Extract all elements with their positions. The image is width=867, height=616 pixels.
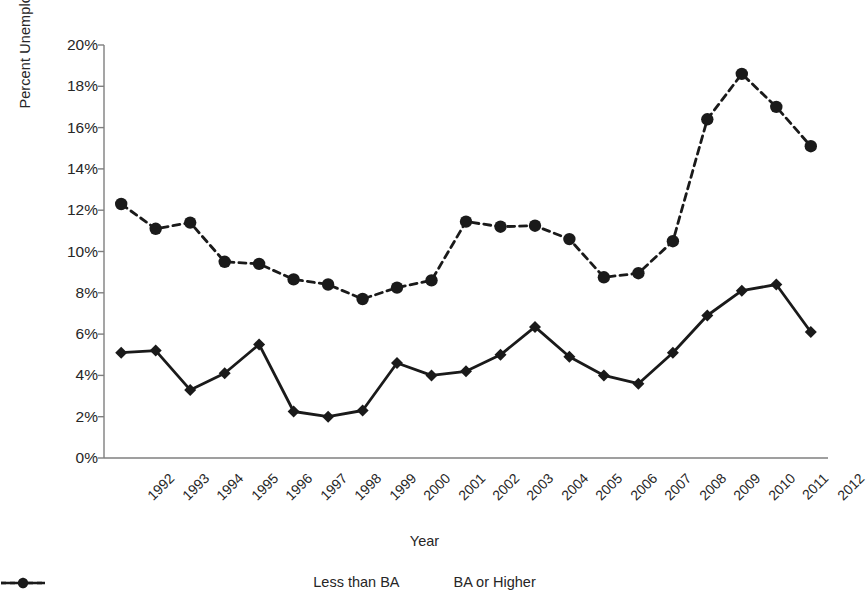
legend-label-less-than-ba: Less than BA xyxy=(313,575,399,590)
data-point-marker xyxy=(253,258,265,270)
legend-item-less-than-ba: Less than BA xyxy=(313,575,399,590)
data-point-marker xyxy=(356,293,368,305)
data-point-marker xyxy=(219,256,231,268)
legend-item-ba-or-higher: BA or Higher xyxy=(454,575,536,590)
series-line-2 xyxy=(121,285,811,417)
x-axis-title-text: Year xyxy=(410,533,439,549)
data-point-marker xyxy=(494,221,506,233)
x-axis-title: Year xyxy=(0,533,849,549)
data-point-marker xyxy=(632,267,644,279)
data-point-marker xyxy=(736,68,748,80)
data-point-marker xyxy=(425,274,437,286)
data-point-marker xyxy=(150,223,162,235)
data-point-marker xyxy=(288,406,300,418)
data-point-marker xyxy=(115,198,127,210)
data-point-marker xyxy=(770,101,782,113)
data-point-marker xyxy=(701,113,713,125)
solid-diamond-legend-icon xyxy=(0,575,46,591)
data-point-marker xyxy=(805,140,817,152)
data-point-marker xyxy=(529,220,541,232)
data-point-marker xyxy=(426,369,438,381)
data-point-marker xyxy=(287,273,299,285)
data-point-marker xyxy=(184,216,196,228)
data-point-marker xyxy=(460,215,472,227)
data-point-marker xyxy=(563,233,575,245)
data-point-marker xyxy=(115,347,127,359)
data-point-marker xyxy=(598,271,610,283)
data-point-marker xyxy=(598,369,610,381)
data-point-marker xyxy=(391,281,403,293)
data-point-marker xyxy=(667,235,679,247)
data-point-marker xyxy=(322,411,334,423)
chart-legend: Less than BA BA or Higher xyxy=(0,575,849,590)
data-point-marker xyxy=(460,365,472,377)
legend-label-ba-or-higher: BA or Higher xyxy=(454,575,536,590)
data-point-marker xyxy=(322,278,334,290)
